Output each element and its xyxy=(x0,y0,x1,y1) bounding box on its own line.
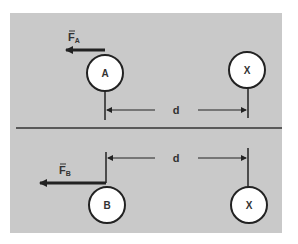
object-b-label: B xyxy=(103,200,110,211)
distance-marker-bottom: d xyxy=(106,148,248,187)
force-label-a: FA xyxy=(68,31,80,44)
force-label-b: FB xyxy=(59,164,71,177)
distance-label-bottom: d xyxy=(173,152,180,164)
object-a: A xyxy=(87,55,123,91)
object-a-label: A xyxy=(101,68,108,79)
top-scenario: FA A X d xyxy=(66,31,265,120)
distance-marker-top: d xyxy=(105,88,248,120)
force-diagram: FA A X d d xyxy=(0,0,298,244)
force-vector-a: FA xyxy=(66,31,105,50)
bottom-scenario: d FB B X xyxy=(40,148,267,223)
object-x-top-label: X xyxy=(244,65,251,76)
object-x-top: X xyxy=(229,52,265,88)
object-x-bottom: X xyxy=(231,187,267,223)
force-vector-b: FB xyxy=(40,164,106,183)
object-b: B xyxy=(89,187,125,223)
object-x-bottom-label: X xyxy=(246,200,253,211)
distance-label-top: d xyxy=(173,104,180,116)
